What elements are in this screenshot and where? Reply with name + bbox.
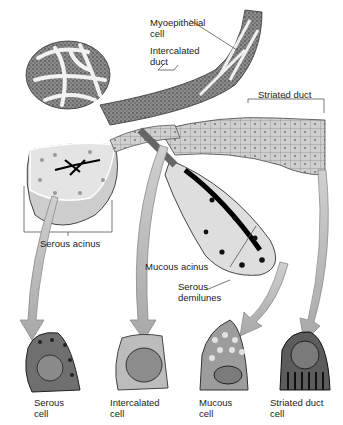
- label-line-1: Myoepithelial: [150, 17, 205, 28]
- label-striated-duct: Striated duct: [258, 89, 311, 100]
- label-line-2: duct: [150, 56, 200, 67]
- label-line-1: Striated duct: [270, 397, 323, 408]
- label-mucous-acinus: Mucous acinus: [145, 261, 208, 272]
- label-mucous-cell: Mucous cell: [199, 397, 232, 419]
- label-line-1: Mucous: [199, 397, 232, 408]
- intercalated-cell-image: [116, 334, 168, 390]
- label-line-1: Intercalated: [150, 45, 200, 56]
- serous-acinus: [27, 143, 118, 225]
- label-line-2: cell: [270, 408, 323, 419]
- label-line-2: cell: [199, 408, 232, 419]
- label-serous-acinus: Serous acinus: [40, 238, 100, 249]
- label-line-2: cell: [34, 408, 64, 419]
- label-line-2: cell: [110, 408, 160, 419]
- arrow-to-intercalated-cell: [130, 145, 168, 340]
- label-intercalated-cell: Intercalated cell: [110, 397, 160, 419]
- label-serous-cell: Serous cell: [34, 397, 64, 419]
- arrow-to-striated-cell: [300, 170, 328, 342]
- label-line-1: Serous: [178, 281, 221, 292]
- label-intercalated-duct: Intercalated duct: [150, 45, 200, 67]
- myoepithelial-acinus: [26, 41, 110, 109]
- label-line-1: Intercalated: [110, 397, 160, 408]
- label-line-1: Serous: [34, 397, 64, 408]
- label-line-2: demilunes: [178, 292, 221, 303]
- label-myoepithelial-cell: Myoepithelial cell: [150, 17, 205, 39]
- label-serous-demilunes: Serous demilunes: [178, 281, 221, 303]
- serous-cell-image: [26, 333, 80, 392]
- mucous-acinus: [165, 160, 276, 275]
- striated-duct-cell-image: [280, 332, 330, 390]
- label-line-2: cell: [150, 28, 205, 39]
- label-striated-duct-cell: Striated duct cell: [270, 397, 323, 419]
